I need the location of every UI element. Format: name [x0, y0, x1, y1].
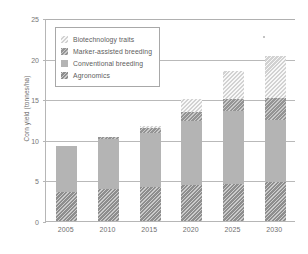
y-tick-label-20: 20 — [1, 56, 39, 63]
y-tick-label-15: 15 — [1, 97, 39, 104]
bar-segment-2010-conventional-breeding — [98, 139, 119, 189]
bar-segment-2005-agronomics — [56, 192, 77, 221]
legend-item-agronomics: Agronomics — [61, 69, 152, 81]
bar-segment-2030-conventional-breeding — [265, 120, 286, 182]
legend-swatch-marker-assisted-breeding — [61, 48, 68, 55]
x-tick-label-2025: 2025 — [225, 226, 241, 233]
legend-label-marker-assisted-breeding: Marker-assisted breeding — [73, 48, 152, 55]
bar-2025[interactable] — [223, 71, 244, 221]
y-tick-label-0: 0 — [1, 219, 39, 226]
legend-label-conventional-breeding: Conventional breeding — [73, 60, 143, 67]
bar-segment-2015-agronomics — [140, 187, 161, 221]
bar-segment-2020-marker-assisted-breeding — [181, 112, 202, 121]
corn-yield-stacked-bar-chart: Corn yield (tonnes/ha) 0510152025 200520… — [0, 0, 308, 254]
bar-segment-2025-agronomics — [223, 184, 244, 221]
bar-2020[interactable] — [181, 99, 202, 221]
bar-segment-2025-marker-assisted-breeding — [223, 99, 244, 111]
bar-segment-2030-marker-assisted-breeding — [265, 98, 286, 120]
y-tick-label-25: 25 — [1, 16, 39, 23]
bar-segment-2020-agronomics — [181, 185, 202, 221]
legend-item-marker-assisted-breeding: Marker-assisted breeding — [61, 45, 152, 57]
stray-speck — [263, 36, 265, 38]
legend-swatch-conventional-breeding — [61, 60, 68, 67]
x-tick-label-2015: 2015 — [141, 226, 157, 233]
bar-2030[interactable] — [265, 56, 286, 221]
bar-segment-2030-biotechnology-traits — [265, 56, 286, 98]
legend-label-agronomics: Agronomics — [73, 72, 110, 79]
y-tick-mark-0 — [43, 222, 46, 223]
x-tick-label-2005: 2005 — [58, 226, 74, 233]
x-tick-label-2020: 2020 — [183, 226, 199, 233]
bar-segment-2005-conventional-breeding — [56, 146, 77, 191]
legend-item-biotechnology-traits: Biotechnology traits — [61, 33, 152, 45]
bar-segment-2030-agronomics — [265, 182, 286, 221]
bar-2005[interactable] — [56, 146, 77, 221]
y-tick-label-10: 10 — [1, 137, 39, 144]
legend-label-biotechnology-traits: Biotechnology traits — [73, 36, 134, 43]
x-tick-label-2010: 2010 — [100, 226, 116, 233]
legend: Biotechnology traits Marker-assisted bre… — [55, 27, 160, 87]
bar-segment-2025-biotechnology-traits — [223, 71, 244, 99]
legend-swatch-agronomics — [61, 72, 68, 79]
bar-2010[interactable] — [98, 137, 119, 221]
bar-segment-2020-conventional-breeding — [181, 121, 202, 185]
bar-segment-2020-biotechnology-traits — [181, 99, 202, 112]
bar-2015[interactable] — [140, 126, 161, 221]
x-tick-label-2030: 2030 — [266, 226, 282, 233]
bar-segment-2010-agronomics — [98, 189, 119, 221]
bar-segment-2015-conventional-breeding — [140, 133, 161, 187]
y-tick-label-5: 5 — [1, 178, 39, 185]
legend-swatch-biotechnology-traits — [61, 36, 68, 43]
legend-item-conventional-breeding: Conventional breeding — [61, 57, 152, 69]
bar-segment-2025-conventional-breeding — [223, 111, 244, 183]
